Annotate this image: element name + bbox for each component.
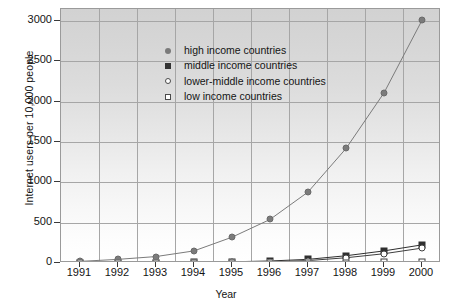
y-tick-label: 3000	[0, 13, 52, 25]
x-tick-mark	[79, 262, 80, 267]
legend-item: lower-middle income countries	[165, 74, 326, 89]
x-tick-mark	[383, 262, 384, 267]
y-tick-label: 2500	[0, 53, 52, 65]
data-point	[419, 245, 426, 252]
data-point	[267, 216, 274, 223]
legend-label: low income countries	[179, 89, 282, 104]
data-point	[267, 259, 274, 262]
data-point	[419, 258, 426, 262]
x-tick-label: 2000	[398, 266, 444, 278]
y-tick-label: 2000	[0, 94, 52, 106]
open-circle-icon	[165, 78, 179, 84]
data-point	[229, 259, 236, 262]
x-tick-mark	[421, 262, 422, 267]
legend-item: middle income countries	[165, 58, 326, 73]
data-point	[305, 189, 312, 196]
filled-square-icon	[165, 63, 179, 69]
series-line	[80, 245, 422, 262]
data-point	[419, 17, 426, 24]
data-point	[381, 89, 388, 96]
legend-item: high income countries	[165, 43, 326, 58]
chart-figure: Internet users per 10,000 people 0500100…	[0, 0, 452, 307]
legend-label: middle income countries	[179, 58, 297, 73]
x-tick-mark	[155, 262, 156, 267]
y-tick-mark	[54, 262, 60, 263]
legend-item: low income countries	[165, 89, 326, 104]
filled-circle-icon	[165, 48, 179, 54]
data-point	[191, 260, 198, 263]
data-point	[153, 260, 160, 263]
data-point	[115, 260, 122, 263]
x-tick-mark	[269, 262, 270, 267]
data-point	[343, 259, 350, 262]
y-tick-label: 500	[0, 215, 52, 227]
data-point	[343, 145, 350, 152]
data-point	[305, 259, 312, 262]
series-line	[80, 248, 422, 262]
y-tick-label: 1500	[0, 134, 52, 146]
y-tick-label: 1000	[0, 174, 52, 186]
data-point	[229, 234, 236, 241]
plot-area: high income countriesmiddle income count…	[60, 8, 440, 262]
x-axis-title: Year	[0, 288, 452, 300]
y-tick-label: 0	[0, 255, 52, 267]
legend-label: high income countries	[179, 43, 286, 58]
x-tick-mark	[231, 262, 232, 267]
data-point	[381, 250, 388, 257]
x-tick-mark	[117, 262, 118, 267]
x-tick-mark	[307, 262, 308, 267]
x-tick-mark	[193, 262, 194, 267]
data-point	[191, 247, 198, 254]
data-point	[77, 260, 84, 263]
chart-legend: high income countriesmiddle income count…	[165, 43, 326, 105]
data-point	[381, 259, 388, 262]
x-tick-mark	[345, 262, 346, 267]
open-square-icon	[165, 94, 179, 100]
legend-label: lower-middle income countries	[179, 74, 326, 89]
